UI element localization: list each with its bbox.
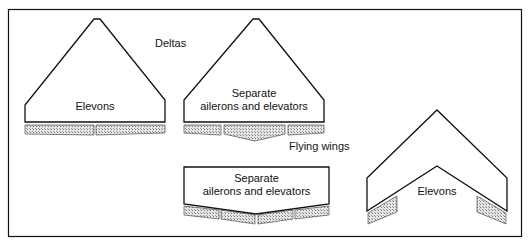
section-label-deltas: Deltas (155, 37, 186, 50)
aileron-left (184, 125, 221, 135)
label-line: ailerons and elevators (184, 185, 329, 198)
delta-separate-shape (184, 19, 324, 141)
label-line: Separate (184, 172, 329, 185)
label-line: Separate (184, 87, 324, 100)
delta-elevons-label: Elevons (25, 100, 165, 113)
label-line: ailerons and elevators (184, 100, 324, 113)
diagram-canvas (0, 0, 532, 245)
delta-elevons-shape (25, 19, 165, 135)
label-line: Elevons (417, 185, 456, 197)
flyingwing-elevons-label: Elevons (407, 185, 467, 198)
elevon-right (96, 125, 165, 135)
delta-separate-label: Separate ailerons and elevators (184, 87, 324, 113)
aileron-right (288, 125, 324, 135)
label-line: Elevons (75, 100, 114, 112)
section-label-flying-wings: Flying wings (289, 140, 350, 153)
flyingwing-separate-label: Separate ailerons and elevators (184, 172, 329, 198)
flyingwing-elevons-shape (367, 110, 507, 224)
elevator-center (224, 125, 285, 141)
elevon-left (25, 125, 94, 135)
